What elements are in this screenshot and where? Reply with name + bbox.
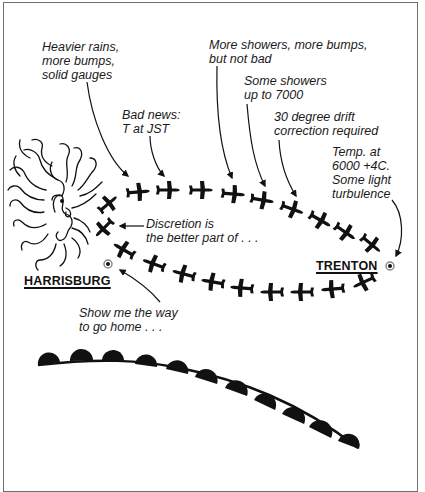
airplane-icon xyxy=(330,218,360,247)
arrow-some-showers xyxy=(247,104,265,186)
airplane-icon xyxy=(200,271,227,293)
annotation-bad-news: Bad news: T at JST xyxy=(122,108,180,136)
airplane-icon xyxy=(90,214,118,242)
airplane-icon xyxy=(170,262,198,286)
annotation-more-showers: More showers, more bumps, but not bad xyxy=(209,38,367,66)
airplane-icon xyxy=(220,184,245,204)
arrow-bad-news xyxy=(150,136,164,176)
annotation-discretion: Discretion is the better part of . . . xyxy=(146,217,259,245)
cloud-horizon-icon xyxy=(38,349,360,449)
annotation-temp: Temp. at 6000 +4C. Some light turbulence xyxy=(332,145,391,201)
airplane-icon xyxy=(140,251,169,276)
arrow-show-me xyxy=(120,270,160,302)
airplane-icon xyxy=(229,278,254,298)
arrow-temp xyxy=(392,200,402,256)
trenton-marker-icon xyxy=(386,262,394,270)
airplane-icon xyxy=(278,196,307,221)
arrow-more-showers xyxy=(217,66,232,178)
airplane-icon xyxy=(189,181,213,199)
airplane-icon xyxy=(320,279,345,299)
wind-face-icon xyxy=(8,139,102,270)
city-label-harrisburg: HARRISBURG xyxy=(24,274,111,288)
airplane-icon xyxy=(260,283,284,301)
annotation-show-me: Show me the way to go home . . . xyxy=(79,306,178,334)
airplane-icon xyxy=(156,181,180,199)
airplane-icon xyxy=(125,182,150,202)
airplane-icon xyxy=(356,229,386,258)
airplane-icon xyxy=(290,283,314,301)
annotation-some-showers: Some showers up to 7000 xyxy=(244,74,327,102)
airplane-icon xyxy=(109,236,139,264)
airplane-icon xyxy=(94,190,122,218)
airplane-icon xyxy=(305,206,335,234)
annotation-drift-correction: 30 degree drift correction required xyxy=(274,110,378,138)
annotation-heavier-rains: Heavier rains, more bumps, solid gauges xyxy=(42,40,119,82)
airplane-icon xyxy=(249,189,276,211)
city-label-trenton: TRENTON xyxy=(316,259,378,273)
harrisburg-marker-icon xyxy=(104,260,112,268)
arrow-drift xyxy=(279,140,296,196)
